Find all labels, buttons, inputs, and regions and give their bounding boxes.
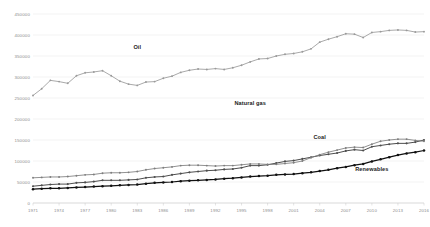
data-point <box>293 162 295 164</box>
data-point <box>336 167 339 170</box>
data-point <box>206 68 208 70</box>
data-point <box>241 164 243 166</box>
data-point <box>379 158 382 161</box>
data-point <box>301 172 304 175</box>
data-point <box>284 163 286 165</box>
data-point <box>206 165 208 167</box>
data-point <box>388 139 390 141</box>
data-point <box>162 175 164 177</box>
data-point <box>275 163 277 165</box>
data-point <box>371 32 373 34</box>
data-point <box>84 72 86 74</box>
data-point <box>84 186 87 189</box>
data-point <box>301 160 303 162</box>
data-point <box>154 176 156 178</box>
x-tick-label-1986: 1986 <box>150 208 176 213</box>
x-tick-label-1977: 1977 <box>72 208 98 213</box>
data-point <box>258 163 260 165</box>
data-point <box>232 177 235 180</box>
data-point <box>327 169 330 172</box>
data-point <box>371 146 373 148</box>
data-point <box>223 68 225 70</box>
data-point <box>58 183 60 185</box>
data-point <box>180 173 182 175</box>
data-point <box>197 179 200 182</box>
x-tick-label-1995: 1995 <box>229 208 255 213</box>
x-tick-label-1989: 1989 <box>176 208 202 213</box>
data-point <box>215 165 217 167</box>
data-point <box>136 178 138 180</box>
data-point <box>67 82 69 84</box>
data-point <box>214 178 217 181</box>
data-point <box>154 168 156 170</box>
x-tick-label-2016: 2016 <box>411 208 430 213</box>
data-point <box>284 160 286 162</box>
data-point <box>101 179 103 181</box>
data-point <box>319 154 321 156</box>
data-point <box>101 185 104 188</box>
data-point <box>414 139 416 141</box>
data-point <box>93 71 95 73</box>
data-point <box>145 81 147 83</box>
data-point <box>232 165 234 167</box>
data-point <box>128 83 130 85</box>
data-point <box>310 157 312 159</box>
data-point <box>188 179 191 182</box>
series-line <box>33 30 424 96</box>
data-point <box>197 170 199 172</box>
data-point <box>110 172 112 174</box>
data-point <box>354 146 356 148</box>
data-point <box>275 55 277 57</box>
data-point <box>336 149 338 151</box>
data-point <box>249 61 251 63</box>
y-tick-label-400000: 400000 <box>2 33 30 38</box>
data-point <box>362 149 364 151</box>
chart-plot-area <box>0 0 430 227</box>
data-point <box>180 71 182 73</box>
data-point <box>171 166 173 168</box>
data-point <box>58 176 60 178</box>
data-point <box>327 151 329 153</box>
data-point <box>267 58 269 60</box>
data-point <box>41 176 43 178</box>
data-point <box>110 185 113 188</box>
data-point <box>188 171 190 173</box>
data-point <box>371 143 373 145</box>
data-point <box>258 175 261 178</box>
data-point <box>67 187 70 190</box>
data-point <box>284 173 287 176</box>
series-label-coal: Coal <box>313 134 326 140</box>
data-point <box>41 184 43 186</box>
data-point <box>301 158 303 160</box>
y-tick-label-0: 0 <box>2 201 30 206</box>
data-point <box>84 174 86 176</box>
data-point <box>49 79 51 81</box>
data-point <box>223 168 225 170</box>
data-point <box>275 174 278 177</box>
data-point <box>197 68 199 70</box>
data-point <box>93 173 95 175</box>
data-point <box>354 33 356 35</box>
data-point <box>58 81 60 83</box>
data-point <box>214 169 216 171</box>
data-point <box>345 166 348 169</box>
data-point <box>301 51 303 53</box>
data-point <box>249 163 251 165</box>
data-point <box>362 37 364 39</box>
data-point <box>292 173 295 176</box>
data-point <box>136 84 138 86</box>
data-point <box>371 160 374 163</box>
y-tick-label-50000: 50000 <box>2 180 30 185</box>
data-point <box>241 64 243 66</box>
data-point <box>145 177 147 179</box>
x-tick-label-2007: 2007 <box>333 208 359 213</box>
data-point <box>397 142 399 144</box>
y-tick-label-150000: 150000 <box>2 138 30 143</box>
data-point <box>397 29 399 31</box>
data-point <box>93 181 95 183</box>
data-point <box>84 181 86 183</box>
data-point <box>240 176 243 179</box>
data-point <box>267 163 269 165</box>
data-point <box>336 152 338 154</box>
x-tick-label-1998: 1998 <box>255 208 281 213</box>
